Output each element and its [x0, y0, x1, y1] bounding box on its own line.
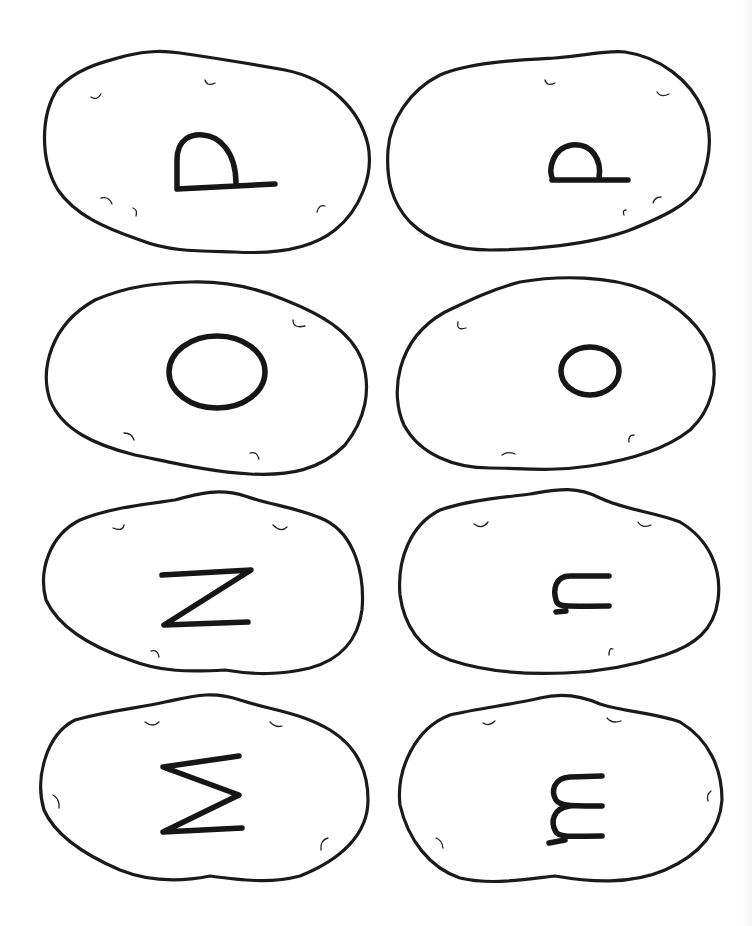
potato-card-lowercase-n[interactable]: n: [400, 490, 719, 674]
potato-outline: [46, 282, 366, 475]
potato-outline: [388, 52, 710, 250]
potato-card-uppercase-o[interactable]: O: [46, 282, 366, 475]
potato-outline: [45, 51, 370, 252]
potato-outline: [44, 492, 363, 674]
worksheet-canvas: D d O o N: [0, 0, 752, 926]
potato-card-lowercase-o[interactable]: o: [397, 278, 714, 470]
potato-card-lowercase-m[interactable]: m: [399, 695, 722, 881]
potato-outline: [41, 695, 368, 881]
potato-card-uppercase-d[interactable]: D: [45, 51, 370, 252]
potato-card-lowercase-d[interactable]: d: [388, 52, 710, 250]
potato-outline: [399, 695, 722, 881]
potato-card-uppercase-m[interactable]: M: [41, 695, 368, 881]
potato-outline: [397, 278, 714, 470]
potato-card-uppercase-n[interactable]: N: [44, 492, 363, 674]
